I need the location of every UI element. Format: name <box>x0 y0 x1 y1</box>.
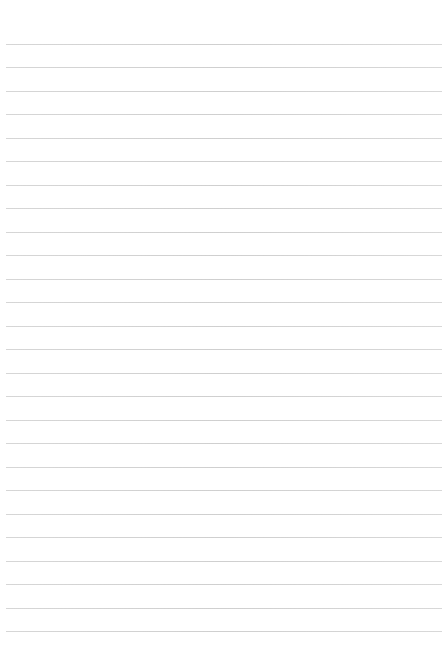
ruled-line <box>6 114 442 115</box>
ruled-line <box>6 467 442 468</box>
ruled-line <box>6 373 442 374</box>
ruled-line <box>6 279 442 280</box>
ruled-line <box>6 91 442 92</box>
ruled-line <box>6 443 442 444</box>
ruled-line <box>6 232 442 233</box>
ruled-line <box>6 490 442 491</box>
ruled-line <box>6 561 442 562</box>
ruled-line <box>6 396 442 397</box>
ruled-line <box>6 138 442 139</box>
ruled-line <box>6 44 442 45</box>
ruled-line <box>6 608 442 609</box>
ruled-line <box>6 161 442 162</box>
ruled-line <box>6 584 442 585</box>
ruled-line <box>6 420 442 421</box>
ruled-line <box>6 349 442 350</box>
lined-paper-page <box>0 0 448 646</box>
ruled-line <box>6 302 442 303</box>
ruled-line <box>6 631 442 632</box>
ruled-line <box>6 67 442 68</box>
ruled-line <box>6 537 442 538</box>
ruled-line <box>6 185 442 186</box>
ruled-line <box>6 514 442 515</box>
ruled-line <box>6 208 442 209</box>
ruled-line <box>6 326 442 327</box>
ruled-line <box>6 255 442 256</box>
